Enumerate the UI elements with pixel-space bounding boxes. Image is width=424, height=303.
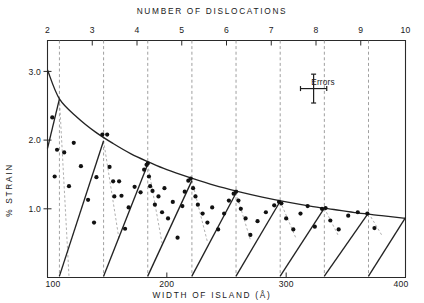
data-point: [142, 168, 146, 172]
data-point: [79, 164, 83, 168]
data-point: [372, 226, 376, 230]
left-axis-title: % STRAIN: [4, 163, 14, 217]
bottom-tick-label: 400: [394, 279, 409, 289]
y-tick-label: 3.0: [28, 67, 41, 77]
data-point: [53, 174, 57, 178]
data-point: [123, 227, 127, 231]
data-point: [313, 225, 317, 229]
data-point: [248, 233, 252, 237]
top-tick-label: 4: [135, 25, 140, 35]
vertical-gridlines: [59, 41, 368, 278]
data-point: [201, 212, 205, 216]
data-point: [291, 227, 295, 231]
top-axis-ticklabels: 2345678910: [45, 25, 410, 35]
data-point: [189, 176, 193, 180]
data-point: [337, 227, 341, 231]
data-point: [356, 210, 360, 214]
data-point: [323, 206, 327, 210]
bottom-axis-ticks: [48, 273, 406, 278]
top-tick-label: 7: [269, 25, 274, 35]
bottom-tick-label: 200: [159, 279, 174, 289]
data-point: [50, 115, 54, 119]
data-point: [67, 184, 71, 188]
plot-frame: [47, 40, 406, 278]
sawtooth-segment: [148, 181, 192, 276]
data-point: [107, 165, 111, 169]
data-point: [171, 200, 175, 204]
leader-line: [369, 213, 382, 235]
data-point: [146, 161, 150, 165]
errors-legend-label: Errors: [311, 78, 335, 87]
sawtooth-segment: [59, 141, 103, 276]
data-point: [279, 201, 283, 205]
data-point: [227, 198, 231, 202]
top-tick-label: 10: [401, 25, 411, 35]
data-point: [100, 133, 104, 137]
data-point: [162, 186, 166, 190]
data-point: [133, 185, 137, 189]
data-point: [111, 179, 115, 183]
data-point: [127, 205, 131, 209]
data-point: [191, 186, 195, 190]
top-tick-label: 2: [45, 25, 50, 35]
data-point: [306, 204, 310, 208]
sawtooth-segment: [104, 164, 148, 276]
data-point: [234, 190, 238, 194]
data-point: [183, 190, 187, 194]
figure-root: NUMBER OF DISLOCATIONS 2345678910 1.02.0…: [0, 0, 424, 303]
bottom-tick-label: 100: [46, 279, 61, 289]
top-axis-title: NUMBER OF DISLOCATIONS: [137, 6, 288, 16]
data-point: [216, 227, 220, 231]
data-point: [150, 189, 154, 193]
data-point: [210, 205, 214, 209]
data-point: [94, 175, 98, 179]
top-tick-label: 8: [314, 25, 319, 35]
y-tick-label: 1.0: [28, 204, 41, 214]
data-point: [148, 184, 152, 188]
data-point: [55, 148, 59, 152]
data-point: [156, 194, 160, 198]
data-point: [365, 212, 369, 216]
sawtooth-segment: [236, 201, 280, 276]
data-point: [196, 203, 200, 207]
data-point: [166, 216, 170, 220]
data-point: [180, 204, 184, 208]
data-point: [328, 218, 332, 222]
data-point: [117, 179, 121, 183]
data-point: [255, 219, 259, 223]
top-tick-label: 9: [358, 25, 363, 35]
bottom-axis-title: WIDTH OF ISLAND (Å): [153, 290, 272, 300]
sawtooth-segment: [48, 99, 60, 148]
data-point: [112, 194, 116, 198]
top-tick-label: 3: [90, 25, 95, 35]
data-point: [272, 203, 276, 207]
data-point: [86, 198, 90, 202]
data-point: [160, 210, 164, 214]
envelope-curve: [48, 70, 406, 218]
y-axis-ticklabels: 1.02.03.0: [28, 67, 41, 214]
data-point: [298, 212, 302, 216]
bottom-axis: 100200300400 WIDTH OF ISLAND (Å): [46, 273, 409, 301]
top-axis: NUMBER OF DISLOCATIONS 2345678910: [45, 6, 410, 46]
bottom-tick-label: 300: [279, 279, 294, 289]
data-point: [138, 190, 142, 194]
data-point: [147, 174, 151, 178]
data-point: [92, 220, 96, 224]
data-point: [205, 220, 209, 224]
strain-vs-island-width-chart: NUMBER OF DISLOCATIONS 2345678910 1.02.0…: [0, 0, 424, 303]
data-point: [222, 212, 226, 216]
top-axis-ticks: [48, 41, 406, 46]
envelope-series: [48, 70, 406, 218]
bottom-axis-ticklabels: 100200300400: [46, 279, 409, 289]
data-point: [193, 194, 197, 198]
data-point: [320, 207, 324, 211]
data-point: [153, 203, 157, 207]
leader-line: [104, 141, 120, 240]
data-point: [119, 194, 123, 198]
top-tick-label: 5: [179, 25, 184, 35]
data-point: [239, 207, 243, 211]
data-point: [243, 216, 247, 220]
gridlines: [59, 41, 368, 278]
data-point: [236, 198, 240, 202]
data-point: [105, 133, 109, 137]
